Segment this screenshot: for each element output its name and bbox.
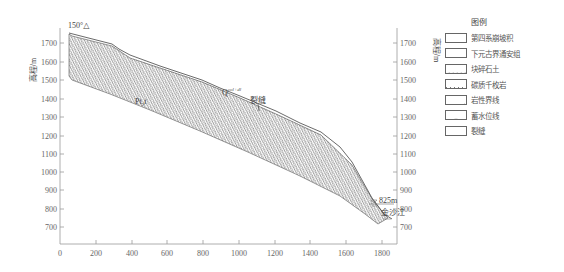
svg-text:1500: 1500 bbox=[400, 76, 416, 85]
bedrock-label: Pt2t bbox=[135, 97, 147, 107]
legend-item-rubble-soil: 块碎石土 bbox=[445, 61, 564, 77]
formation-symbol-icon: Pt2t bbox=[445, 48, 467, 58]
svg-text:900: 900 bbox=[400, 186, 412, 195]
svg-text:600: 600 bbox=[161, 249, 173, 258]
legend-title: 图例 bbox=[471, 16, 564, 30]
bedrock-body bbox=[69, 34, 388, 224]
curve-line-icon bbox=[445, 95, 467, 105]
svg-text:1500: 1500 bbox=[41, 76, 57, 85]
svg-text:800: 800 bbox=[45, 205, 57, 214]
svg-text:1100: 1100 bbox=[400, 150, 416, 159]
left-y-tick-labels: 1700 1600 1500 1400 1300 1200 1100 1000 … bbox=[41, 39, 57, 232]
svg-text:col+dl: col+dl bbox=[452, 42, 461, 43]
water-level-icon bbox=[445, 110, 467, 120]
svg-text:1600: 1600 bbox=[338, 249, 354, 258]
svg-text:1600: 1600 bbox=[400, 58, 416, 67]
geological-profile: 1700 1600 1500 1400 1300 1200 1100 1000 … bbox=[0, 0, 445, 272]
svg-text:t: t bbox=[458, 58, 460, 59]
top-marker-label: 150°△ bbox=[68, 21, 90, 30]
river-label: 金沙江 bbox=[381, 207, 405, 217]
water-level-label: 825m bbox=[379, 196, 398, 205]
svg-text:1100: 1100 bbox=[41, 150, 57, 159]
svg-text:1400: 1400 bbox=[302, 249, 318, 258]
svg-text:0: 0 bbox=[58, 249, 62, 258]
legend-item-phyllite: 碳质千枚岩 bbox=[445, 77, 564, 93]
left-axis-label: 高程/m bbox=[28, 57, 38, 82]
svg-text:1700: 1700 bbox=[41, 39, 57, 48]
crack-line-icon bbox=[445, 126, 467, 136]
legend-item-tongan-formation: Pt2t 下元古界通安组 bbox=[445, 46, 564, 62]
legend-item-crack: 裂缝 bbox=[445, 123, 564, 139]
svg-text:1700: 1700 bbox=[400, 39, 416, 48]
legend-item-lithology-boundary: 岩性界线 bbox=[445, 92, 564, 108]
dotted-hatch-icon bbox=[445, 64, 467, 74]
svg-text:1400: 1400 bbox=[41, 95, 57, 104]
svg-text:200: 200 bbox=[90, 249, 102, 258]
svg-text:900: 900 bbox=[45, 186, 57, 195]
right-y-tick-labels: 1700 1600 1500 1400 1300 1200 1100 1000 … bbox=[400, 39, 416, 232]
svg-text:1200: 1200 bbox=[267, 249, 283, 258]
right-axis-label: 高程/m bbox=[432, 38, 442, 63]
svg-text:1400: 1400 bbox=[400, 95, 416, 104]
svg-text:1000: 1000 bbox=[231, 249, 247, 258]
svg-text:1200: 1200 bbox=[400, 132, 416, 141]
svg-text:1800: 1800 bbox=[374, 249, 390, 258]
x-tick-labels: 0 200 400 600 800 1000 1200 1400 1600 18… bbox=[58, 249, 390, 258]
legend-item-water-level: 蓄水位线 bbox=[445, 108, 564, 124]
svg-text:Q: Q bbox=[448, 42, 453, 43]
svg-text:800: 800 bbox=[197, 249, 209, 258]
svg-text:1200: 1200 bbox=[41, 132, 57, 141]
svg-text:1000: 1000 bbox=[41, 168, 57, 177]
svg-text:1600: 1600 bbox=[41, 58, 57, 67]
svg-text:1000: 1000 bbox=[400, 168, 416, 177]
legend-item-colluvium: Qcol+dl 第四系崩坡积 bbox=[445, 30, 564, 46]
svg-text:700: 700 bbox=[400, 223, 412, 232]
colluvium-symbol-icon: Qcol+dl bbox=[445, 33, 467, 43]
wavy-hatch-icon bbox=[445, 79, 467, 89]
svg-text:400: 400 bbox=[126, 249, 138, 258]
svg-text:Pt: Pt bbox=[448, 58, 453, 59]
crack-label: 裂缝 bbox=[250, 95, 266, 105]
svg-text:1300: 1300 bbox=[400, 113, 416, 122]
svg-text:1300: 1300 bbox=[41, 113, 57, 122]
legend: 图例 Qcol+dl 第四系崩坡积 Pt2t 下元古界通安组 块碎石土 碳质千枚… bbox=[445, 16, 564, 139]
svg-text:700: 700 bbox=[45, 223, 57, 232]
